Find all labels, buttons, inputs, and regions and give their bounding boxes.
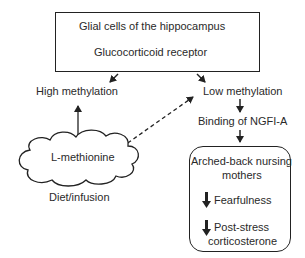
down-arrow-icon	[202, 220, 211, 236]
effect-fearfulness: Fearfulness	[214, 194, 271, 206]
effect-post-stress-line2: corticosterone	[208, 235, 277, 247]
effect-post-stress-line1: Post-stress	[214, 221, 269, 233]
down-arrow-icon	[202, 192, 211, 208]
effect-arrows	[0, 0, 305, 258]
